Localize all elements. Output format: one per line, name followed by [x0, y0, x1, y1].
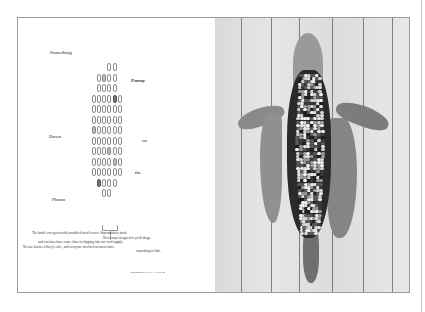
kernel-cell — [92, 137, 96, 145]
title-word: Something — [50, 50, 72, 55]
title-word: Funny — [131, 78, 145, 83]
deck-line: something to hide. — [136, 249, 161, 253]
kernel-cell — [102, 147, 106, 155]
kernel-cell — [107, 105, 111, 113]
kernel-cell — [92, 116, 96, 124]
kernel-cell — [92, 105, 96, 113]
kernel-cell — [113, 63, 117, 71]
kernel-cell — [102, 168, 106, 176]
kernel-cell — [113, 84, 117, 92]
kernel-cell — [107, 126, 111, 134]
kernel-cell — [97, 105, 101, 113]
kernel-cell — [118, 168, 122, 176]
kernel-cell — [97, 158, 101, 166]
plank-seam — [241, 18, 242, 292]
title-word: the — [135, 170, 141, 175]
left-page: SomethingFunnyDownonthePharm The battle … — [18, 18, 215, 292]
kernel-cell — [118, 116, 122, 124]
kernel-cell — [102, 95, 106, 103]
corn-cob — [287, 70, 331, 238]
kernel-cell — [107, 116, 111, 124]
kernel-cell — [92, 158, 96, 166]
kernel-cell — [107, 95, 111, 103]
kernel-cell — [102, 74, 106, 82]
kernel-cell — [118, 137, 122, 145]
kernel-cell — [97, 116, 101, 124]
title-word: Down — [49, 134, 61, 139]
kernel-cell — [113, 137, 117, 145]
kernel-cell — [92, 168, 96, 176]
kernel-cell — [97, 168, 101, 176]
corn-photo — [215, 18, 409, 292]
kernel-cell — [102, 179, 106, 187]
kernel-cell — [97, 147, 101, 155]
kernel-cell — [107, 137, 111, 145]
kernel-cell — [102, 105, 106, 113]
title-word: on — [142, 138, 147, 143]
husk-left-inner — [260, 113, 282, 223]
deck-line: No one knows if they're safe, and everyo… — [23, 245, 114, 249]
kernel-cell — [113, 147, 117, 155]
kernel-cell — [113, 105, 117, 113]
kernel-cell — [92, 126, 96, 134]
kernel-cell — [113, 126, 117, 134]
kernel-cell — [113, 116, 117, 124]
kernel-cell — [107, 74, 111, 82]
kernel-cell — [107, 168, 111, 176]
kernel-cell — [118, 158, 122, 166]
kernel-cell — [97, 74, 101, 82]
kernel-cell — [92, 95, 96, 103]
title-word: Pharm — [52, 197, 65, 202]
kernel-cell — [97, 137, 101, 145]
page-edge-line — [421, 0, 422, 312]
kernel-cell — [107, 179, 111, 187]
husk-right-inner — [327, 118, 357, 238]
kernel-cell — [102, 189, 106, 197]
kernel-cell — [102, 116, 106, 124]
kernel-cell — [113, 95, 117, 103]
kernel-cell — [102, 126, 106, 134]
kernel-cell — [118, 105, 122, 113]
kernel-cell — [102, 84, 106, 92]
kernel-cell — [113, 158, 117, 166]
kernel-cell — [107, 63, 111, 71]
kernel-cell — [118, 147, 122, 155]
kernel-cell — [97, 95, 101, 103]
plank-seam — [363, 18, 364, 292]
kernel-cell — [102, 137, 106, 145]
kernel-cell — [113, 74, 117, 82]
kernel-cell — [92, 147, 96, 155]
kernel-cell — [97, 126, 101, 134]
kernel-cell — [118, 95, 122, 103]
photo-credit: Photograph by HOLLY LINDEM — [130, 271, 165, 274]
kernel-cell — [97, 84, 101, 92]
magazine-spread: SomethingFunnyDownonthePharm The battle … — [17, 17, 410, 293]
kernel-cell — [113, 179, 117, 187]
kernel-cell — [102, 158, 106, 166]
plank-seam — [392, 18, 393, 292]
kernel-cell — [113, 168, 117, 176]
kernel-cell — [107, 84, 111, 92]
kernel-cell — [107, 189, 111, 197]
kernel-cell — [118, 126, 122, 134]
kernel-cell — [97, 179, 101, 187]
kernel-cell — [107, 158, 111, 166]
kernel-cell — [107, 147, 111, 155]
